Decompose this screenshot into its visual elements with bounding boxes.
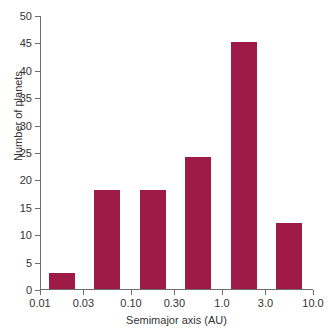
x-axis-tick-label: 10.0 <box>302 298 323 309</box>
x-axis-tick <box>40 290 41 295</box>
y-axis-tick <box>35 71 40 72</box>
x-axis-tick-label: 0.30 <box>164 298 185 309</box>
y-axis-tick <box>35 153 40 154</box>
y-axis-tick <box>35 126 40 127</box>
x-axis-tick <box>174 290 175 295</box>
x-axis-tick-label: 0.10 <box>120 298 141 309</box>
y-axis-tick-label: 10 <box>20 230 32 241</box>
y-axis-tick-label: 0 <box>26 285 32 296</box>
bar <box>185 157 211 289</box>
bar <box>276 223 302 289</box>
y-axis-tick-label: 15 <box>20 202 32 213</box>
y-axis-tick-label: 50 <box>20 11 32 22</box>
y-axis-tick <box>35 235 40 236</box>
y-axis-tick <box>35 43 40 44</box>
y-axis-tick <box>35 208 40 209</box>
x-axis-tick <box>222 290 223 295</box>
x-axis-tick <box>83 290 84 295</box>
x-axis-tick-label: 3.0 <box>258 298 273 309</box>
y-axis-tick <box>35 263 40 264</box>
y-axis-tick <box>35 180 40 181</box>
y-axis-tick <box>35 98 40 99</box>
x-axis-tick <box>265 290 266 295</box>
x-axis-tick <box>131 290 132 295</box>
x-axis-title: Semimajor axis (AU) <box>40 314 313 326</box>
y-axis-tick-label: 5 <box>26 257 32 268</box>
y-axis-line <box>40 16 41 290</box>
x-axis-tick-label: 1.0 <box>214 298 229 309</box>
x-axis-line <box>40 289 313 290</box>
bar <box>231 42 257 289</box>
bar <box>140 190 166 289</box>
x-axis-tick-label: 0.03 <box>73 298 94 309</box>
y-axis-title: Number of planets <box>12 46 24 186</box>
plot-area: 05101520253035404550 0.010.030.100.301.0… <box>40 16 313 290</box>
y-axis-tick <box>35 16 40 17</box>
bar <box>94 190 120 289</box>
histogram-figure: 05101520253035404550 0.010.030.100.301.0… <box>0 0 328 336</box>
x-axis-tick <box>313 290 314 295</box>
bar <box>49 273 75 289</box>
x-axis-tick-label: 0.01 <box>29 298 50 309</box>
